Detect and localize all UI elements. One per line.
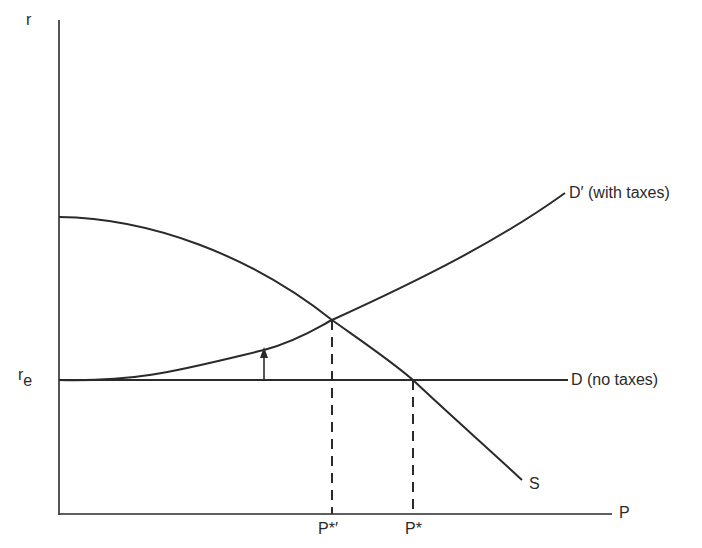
- demand-with-tax-label: D′ (with taxes): [569, 184, 670, 202]
- supply-curve: [59, 217, 522, 480]
- re-label: re: [18, 366, 32, 384]
- p-star-prime-label: P*′: [318, 520, 338, 538]
- x-axis-label: P: [619, 504, 630, 522]
- diagram-canvas: [0, 0, 702, 548]
- p-star-label: P*: [405, 520, 422, 538]
- demand-with-tax-curve: [59, 193, 565, 380]
- y-axis-label: r: [26, 11, 31, 29]
- demand-no-tax-label: D (no taxes): [571, 371, 658, 389]
- re-subscript: e: [23, 372, 32, 389]
- supply-label: S: [529, 475, 540, 493]
